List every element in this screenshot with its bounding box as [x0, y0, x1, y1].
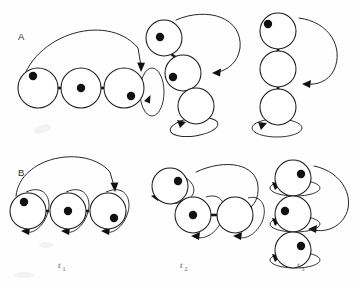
- time-label-t1-sub: 1: [63, 266, 66, 272]
- node-circle: [104, 68, 144, 108]
- particle-dot: [281, 207, 289, 215]
- diagram-canvas: A B t 1 t 2 t 3: [0, 0, 360, 284]
- particle-dot: [64, 207, 72, 215]
- node-circle: [178, 88, 214, 124]
- time-label-t3-sub: 3: [302, 266, 305, 272]
- node-circle: [275, 160, 311, 196]
- particle-dot: [297, 242, 305, 250]
- row-label-b: B: [18, 167, 25, 178]
- particle-dot: [29, 72, 37, 80]
- particle-dot: [169, 73, 177, 81]
- time-label-t2-sub: 2: [185, 266, 188, 272]
- particle-dot: [297, 170, 305, 178]
- particle-dot: [264, 20, 272, 28]
- node-circle: [165, 55, 201, 91]
- node-circle: [260, 89, 296, 125]
- node-circle: [90, 193, 126, 229]
- particle-dot: [156, 33, 164, 41]
- particle-dot: [127, 92, 135, 100]
- node-circle: [217, 197, 253, 233]
- molecular-chain-transition-diagram: A B t 1 t 2 t 3: [0, 0, 360, 284]
- particle-dot: [174, 177, 182, 185]
- particle-dot: [189, 211, 197, 219]
- particle-dot: [20, 198, 28, 206]
- particle-dot: [110, 214, 118, 222]
- row-label-a: A: [18, 31, 25, 42]
- node-circle: [260, 51, 296, 87]
- node-circle: [260, 13, 296, 49]
- node-circle: [152, 168, 188, 204]
- node-circle: [275, 196, 311, 232]
- node-circle: [10, 193, 46, 229]
- node-circle: [275, 232, 311, 268]
- particle-dot: [77, 84, 85, 92]
- node-circle: [18, 68, 58, 108]
